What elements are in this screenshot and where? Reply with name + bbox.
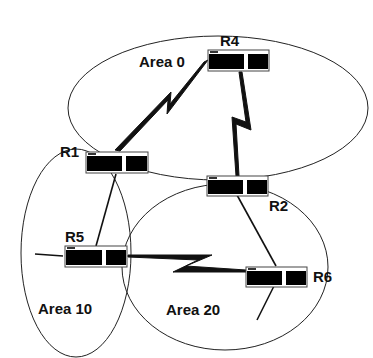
area-label-20: Area 20 xyxy=(166,301,220,318)
router-label-r5: R5 xyxy=(65,228,84,245)
ospf-area-diagram: R4 R1 R2 R5 R6 Area 0 Area 10 Area 20 xyxy=(0,0,373,358)
serial-link-r1-r4 xyxy=(115,60,208,151)
router-label-r6: R6 xyxy=(313,268,332,285)
router-label-r4: R4 xyxy=(220,32,240,49)
router-label-r2: R2 xyxy=(269,197,288,214)
router-r5[interactable] xyxy=(65,246,127,267)
link-r5-stub xyxy=(35,254,63,256)
link-r1-r5 xyxy=(96,174,116,246)
router-r4[interactable] xyxy=(208,50,269,71)
router-label-r1: R1 xyxy=(60,143,79,160)
serial-link-r5-r6 xyxy=(128,255,246,272)
area-label-10: Area 10 xyxy=(38,300,92,317)
router-r6[interactable] xyxy=(246,267,307,287)
router-r2[interactable] xyxy=(207,176,268,196)
area-label-0: Area 0 xyxy=(139,53,185,70)
router-r1[interactable] xyxy=(86,152,148,173)
serial-link-r4-r2 xyxy=(232,72,251,176)
